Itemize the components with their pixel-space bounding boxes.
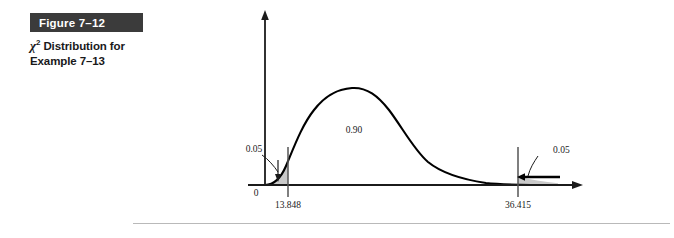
x-axis-arrowhead (572, 181, 583, 189)
figure-caption-line-1: χ2 Distribution for (30, 39, 150, 54)
right-tail-area-label: 0.05 (553, 145, 570, 155)
y-axis-arrowhead (261, 10, 269, 20)
left-tail-area-label: 0.05 (246, 144, 263, 154)
figure-label-block: Figure 7–12 χ2 Distribution for Example … (30, 13, 150, 68)
center-area-label: 0.90 (346, 125, 363, 135)
right-annotation-leader (528, 156, 538, 176)
figure-caption: χ2 Distribution for Example 7–13 (30, 39, 150, 68)
x-tick-label-right: 36.415 (505, 200, 531, 210)
figure-caption-line-1-rest: Distribution for (40, 40, 125, 52)
chi-square-distribution-chart: 0.05 0.90 0.05 0 13.848 36.415 (228, 0, 600, 215)
figure-caption-line-2: Example 7–13 (30, 54, 150, 69)
distribution-curve (265, 88, 558, 185)
chart-svg: 0.05 0.90 0.05 0 13.848 36.415 (228, 0, 600, 215)
x-tick-label-left: 13.848 (275, 200, 301, 210)
origin-label: 0 (254, 188, 259, 198)
bottom-divider-rule (133, 223, 670, 224)
figure-number-box: Figure 7–12 (30, 13, 143, 32)
figure-number-text: Figure 7–12 (39, 17, 105, 29)
figure-page: Figure 7–12 χ2 Distribution for Example … (0, 0, 674, 238)
